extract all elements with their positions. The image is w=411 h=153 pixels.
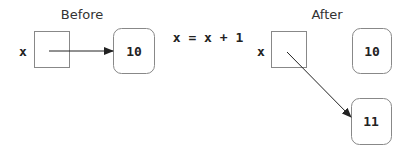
after-variable-label: x — [257, 44, 265, 59]
variable-reassignment-diagram: Before x 10 x = x + 1 After x 10 11 — [0, 0, 411, 153]
after-reference-arrow — [287, 52, 351, 117]
before-value-text: 10 — [126, 44, 142, 59]
after-variable-box — [272, 32, 307, 68]
before-title: Before — [61, 7, 104, 22]
before-variable-box — [35, 32, 70, 68]
assignment-statement: x = x + 1 — [173, 30, 244, 45]
after-title: After — [311, 7, 343, 22]
diagram-canvas: Before x 10 x = x + 1 After x 10 11 — [0, 0, 411, 153]
after-old-value-text: 10 — [364, 44, 380, 59]
after-new-value-text: 11 — [363, 114, 379, 129]
before-variable-label: x — [19, 44, 27, 59]
